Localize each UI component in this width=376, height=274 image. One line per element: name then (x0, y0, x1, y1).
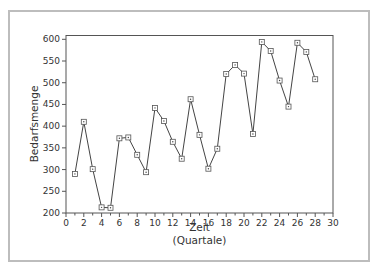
plot-area (66, 36, 333, 214)
x-tick-label: 24 (274, 218, 286, 228)
x-tick-label: 4 (99, 218, 105, 228)
x-tick-label: 12 (167, 218, 178, 228)
line-chart: 200250300350400450500550600 024681012141… (0, 0, 376, 274)
axes (66, 36, 333, 214)
y-tick-label: 250 (43, 186, 60, 196)
x-tick-label: 10 (149, 218, 161, 228)
y-tick-label: 350 (43, 143, 60, 153)
y-tick-label: 200 (43, 208, 60, 218)
x-tick-label: 26 (292, 218, 304, 228)
y-tick-label: 400 (43, 121, 60, 131)
x-axis-subtitle: (Quartale) (173, 234, 227, 246)
y-tick-label: 450 (43, 99, 60, 109)
y-axis-ticks: 200250300350400450500550600 (43, 34, 66, 218)
x-tick-label: 28 (309, 218, 321, 228)
x-tick-label: 2 (81, 218, 87, 228)
x-axis-title: Zeit (189, 221, 210, 233)
data-markers (72, 39, 317, 210)
y-tick-label: 500 (43, 78, 60, 88)
data-line (75, 42, 315, 208)
y-tick-label: 550 (43, 56, 60, 66)
x-tick-label: 8 (134, 218, 140, 228)
x-tick-label: 6 (117, 218, 123, 228)
x-tick-label: 30 (327, 218, 339, 228)
y-axis-title: Bedarfsmenge (28, 86, 40, 163)
x-tick-label: 0 (63, 218, 69, 228)
x-tick-label: 20 (238, 218, 250, 228)
x-tick-label: 22 (256, 218, 267, 228)
y-tick-label: 300 (43, 165, 60, 175)
y-tick-label: 600 (43, 34, 60, 44)
x-tick-label: 18 (220, 218, 232, 228)
